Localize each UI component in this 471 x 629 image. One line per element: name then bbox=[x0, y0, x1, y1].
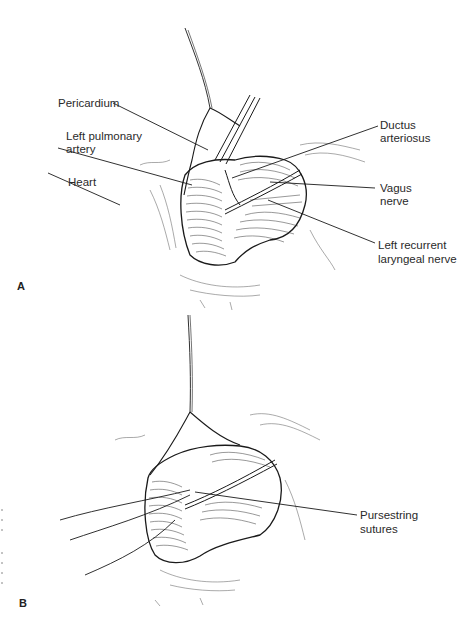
panel-b-leader-lines bbox=[195, 492, 357, 515]
surgical-illustration bbox=[0, 0, 471, 629]
margin-marks bbox=[1, 510, 3, 583]
label-ductus-arteriosus-line1: Ductus bbox=[380, 119, 416, 132]
label-vagus-nerve-line2: nerve bbox=[380, 195, 409, 208]
label-pursestring-sutures-line2: sutures bbox=[360, 523, 398, 536]
label-pursestring-sutures-line1: Pursestring bbox=[360, 509, 418, 522]
panel-a-drawing bbox=[140, 28, 365, 310]
label-left-pulmonary-artery-line1: Left pulmonary bbox=[66, 130, 142, 143]
label-left-recurrent-laryngeal-nerve-line2: laryngeal nerve bbox=[378, 253, 457, 266]
label-left-recurrent-laryngeal-nerve-line1: Left recurrent bbox=[378, 239, 446, 252]
label-vagus-nerve-line1: Vagus bbox=[380, 182, 412, 195]
panel-a-leader-lines bbox=[48, 103, 378, 243]
label-ductus-arteriosus-line2: arteriosus bbox=[380, 132, 431, 145]
label-heart: Heart bbox=[68, 176, 96, 189]
panel-letter-a: A bbox=[17, 280, 25, 292]
panel-letter-b: B bbox=[19, 597, 27, 609]
label-left-pulmonary-artery-line2: artery bbox=[66, 143, 95, 156]
panel-b-drawing bbox=[60, 315, 320, 606]
label-pericardium: Pericardium bbox=[58, 97, 119, 110]
